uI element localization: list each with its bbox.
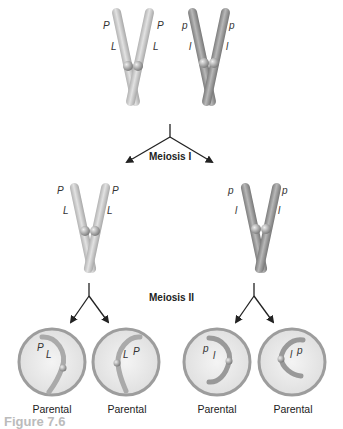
allele-label: P xyxy=(103,21,110,31)
middle-chromosome-left xyxy=(69,182,111,274)
gamete-allele: l xyxy=(290,350,292,360)
gamete-label: Parental xyxy=(182,404,252,415)
meiosis-2-arrows-right xyxy=(236,283,273,322)
gamete-allele: l xyxy=(213,351,215,361)
top-chromosome-dark xyxy=(187,7,231,107)
middle-chromosome-right xyxy=(240,182,282,274)
gamete-label: Parental xyxy=(258,404,328,415)
gamete-label: Parental xyxy=(17,404,87,415)
meiosis-2-arrows-left xyxy=(71,283,108,322)
allele-label: l xyxy=(189,42,191,52)
allele-label: L xyxy=(63,206,69,216)
allele-label: P xyxy=(157,21,164,31)
gamete-allele: p xyxy=(203,344,209,354)
allele-label: P xyxy=(112,186,119,196)
gamete-allele: L xyxy=(123,350,129,360)
allele-label: L xyxy=(107,206,113,216)
allele-label: l xyxy=(226,42,228,52)
allele-label: p xyxy=(182,21,188,31)
meiosis-1-label: Meiosis I xyxy=(149,152,191,162)
allele-label: L xyxy=(153,42,159,52)
allele-label: l xyxy=(278,206,280,216)
gamete-cell-4 xyxy=(259,329,325,395)
allele-label: p xyxy=(229,21,235,31)
top-chromosome-light xyxy=(111,7,155,107)
meiosis-2-label: Meiosis II xyxy=(149,293,194,303)
allele-label: p xyxy=(228,186,234,196)
gamete-allele: P xyxy=(37,343,44,353)
gamete-allele: p xyxy=(297,346,303,356)
gamete-cell-1 xyxy=(19,329,85,395)
figure-caption: Figure 7.6 xyxy=(4,415,65,428)
allele-label: l xyxy=(235,206,237,216)
gamete-allele: L xyxy=(46,350,52,360)
allele-label: P xyxy=(57,186,64,196)
gamete-cell-3 xyxy=(184,329,250,395)
gamete-allele: P xyxy=(133,347,140,357)
allele-label: L xyxy=(111,42,117,52)
allele-label: p xyxy=(282,186,288,196)
gamete-label: Parental xyxy=(92,404,162,415)
gamete-cell-2 xyxy=(93,329,159,395)
